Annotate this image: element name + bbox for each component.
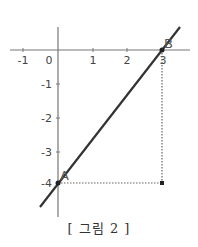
y-tick-label: -4 <box>41 177 52 190</box>
coordinate-plane: -1 0 1 2 3 -1 -2 -3 -4 A B <box>0 0 198 247</box>
figure-caption: [ 그림 2 ] <box>0 218 198 237</box>
y-tick-label: -1 <box>41 78 52 91</box>
x-tick-label: 0 <box>46 54 53 67</box>
corner-point <box>160 181 164 185</box>
x-tick-label: 2 <box>124 54 131 67</box>
x-tick-label: -1 <box>18 54 29 67</box>
y-tick-label: -2 <box>41 112 52 125</box>
x-tick-label: 1 <box>90 54 97 67</box>
coordinate-figure: -1 0 1 2 3 -1 -2 -3 -4 A B [ 그림 2 ] <box>0 0 198 247</box>
point-b-label: B <box>164 36 173 51</box>
y-tick-label: -3 <box>41 146 52 159</box>
point-a-label: A <box>60 168 69 183</box>
x-tick-label: 3 <box>160 54 167 67</box>
